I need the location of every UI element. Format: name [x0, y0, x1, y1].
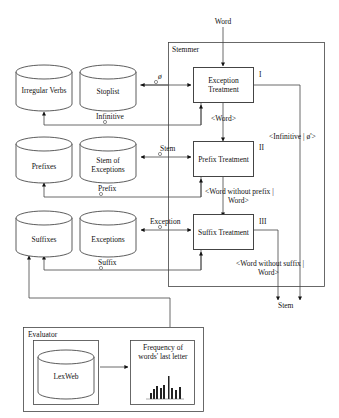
edge-label-stem: Stem — [160, 144, 175, 153]
stage-iii-numeral: III — [259, 217, 267, 226]
flow-label-without-prefix-2: Word> — [228, 196, 249, 205]
stage-i-numeral: I — [259, 70, 262, 79]
exception-treatment-box: Exception Treatment — [193, 67, 254, 103]
stage-ii-numeral: II — [259, 143, 264, 152]
edge-label-prefix: Prefix — [98, 184, 116, 193]
output-stem-label: Stem — [278, 301, 293, 310]
prefix-treatment-box: Prefix Treatment — [193, 141, 254, 177]
word-input-label: Word — [210, 17, 236, 26]
edge-label-exception: Exception — [150, 217, 180, 226]
db-suffixes: Suffixes — [20, 235, 68, 244]
stemmer-title: Stemmer — [172, 45, 199, 54]
chart-label-line1: Frequency of — [131, 343, 195, 352]
edge-label-empty: ø — [158, 72, 162, 81]
flow-label-word: <Word> — [211, 114, 236, 123]
flow-label-infinitive-empty: <Infinitive | ø'> — [269, 132, 316, 141]
evaluator-title: Evaluator — [28, 330, 57, 339]
db-stoplist: Stoplist — [84, 87, 132, 96]
chart-label-line2: words' last letter — [131, 352, 195, 361]
db-stem-of-exceptions: Stem of Exceptions — [86, 156, 130, 174]
flow-label-without-prefix-1: <Word without prefix | — [205, 187, 274, 196]
db-prefixes: Prefixes — [20, 162, 68, 171]
db-irregular-verbs: Irregular Verbs — [20, 86, 68, 95]
edge-label-infinitive: Infinitive — [96, 112, 124, 121]
mini-bar-chart — [150, 376, 181, 399]
edge-label-suffix: Suffix — [98, 258, 117, 267]
db-lexweb: LexWeb — [40, 372, 92, 381]
flow-label-without-suffix-1: <Word without suffix | — [236, 259, 304, 268]
flow-label-without-suffix-2: Word> — [258, 268, 279, 277]
db-exceptions: Exceptions — [84, 235, 132, 244]
suffix-treatment-box: Suffix Treatment — [193, 214, 254, 250]
